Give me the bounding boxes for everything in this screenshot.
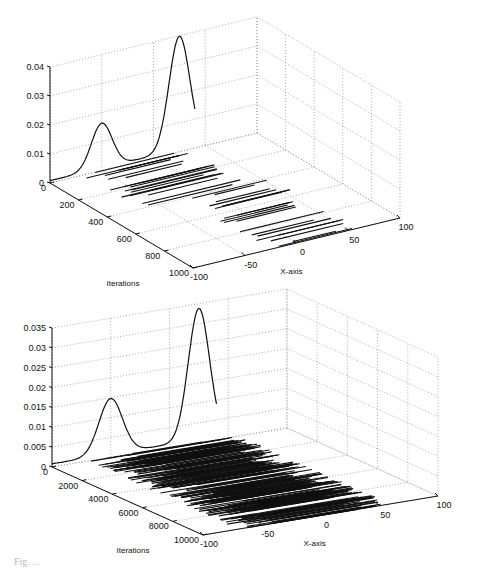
grid-line <box>50 75 400 160</box>
figure: 00.010.020.030.0402004006008001000-100-5… <box>0 0 481 571</box>
iter-tick <box>136 233 140 234</box>
sample-trace <box>279 229 352 247</box>
iter-tick <box>52 466 56 467</box>
x-tick-label: 50 <box>349 235 359 245</box>
iter-tick <box>82 480 86 481</box>
z-tick-label: 0.02 <box>28 383 46 393</box>
iter-tick-label: 10000 <box>174 535 199 545</box>
density-curve <box>50 36 195 180</box>
sample-trace <box>236 207 295 221</box>
z-tick <box>47 66 50 67</box>
iter-tick <box>112 493 116 494</box>
grid-line <box>50 104 400 189</box>
sample-trace <box>131 175 204 193</box>
z-tick-label: 0.01 <box>26 149 44 159</box>
x-tick-label: 0 <box>324 520 329 530</box>
sample-trace <box>278 220 340 235</box>
iter-tick-label: 200 <box>60 200 75 210</box>
iter-tick <box>173 520 177 521</box>
z-tick-label: 0.025 <box>23 363 46 373</box>
sample-trace <box>148 178 217 195</box>
z-tick-label: 0.035 <box>23 323 46 333</box>
density-curve <box>52 308 217 463</box>
x-tick-label: 50 <box>380 510 390 520</box>
sample-trace <box>130 167 214 187</box>
iter-tick <box>50 182 54 183</box>
iter-tick-label: 1000 <box>169 268 189 278</box>
sample-trace <box>215 185 255 195</box>
x-tick-label: 0 <box>300 247 305 257</box>
iter-tick-label: 400 <box>88 217 103 227</box>
x-axis-label: X-axis <box>304 539 326 548</box>
sample-trace <box>87 156 180 179</box>
iterations-axis-label: Iterations <box>107 279 140 288</box>
z-tick-label: 0.01 <box>28 422 46 432</box>
bottom-3d-plot: 00.0050.010.0150.020.0250.030.0350200040… <box>23 289 451 555</box>
x-axis-label: X-axis <box>280 267 302 276</box>
x-tick <box>397 215 400 218</box>
grid-line <box>52 349 438 417</box>
x-tick-label: -100 <box>190 272 208 282</box>
z-tick-label: 0.03 <box>28 343 46 353</box>
z-tick-label: 0.04 <box>26 62 44 72</box>
iter-tick <box>143 507 147 508</box>
z-tick-label: 0.03 <box>26 91 44 101</box>
sample-trace <box>237 202 293 215</box>
iter-tick-label: 0 <box>43 467 48 477</box>
sample-trace <box>240 212 324 232</box>
iter-tick-label: 6000 <box>119 508 139 518</box>
z-tick-label: 0.02 <box>26 120 44 130</box>
figure-caption: Fig. ... <box>14 556 40 567</box>
iter-tick-label: 4000 <box>88 494 108 504</box>
x-tick-label: 100 <box>436 500 451 510</box>
iterations-axis-label: Iterations <box>117 546 150 555</box>
grid-line <box>52 329 438 397</box>
iter-tick-label: 8000 <box>149 521 169 531</box>
sample-trace <box>257 218 331 236</box>
sample-trace <box>220 205 287 221</box>
x-tick-label: -50 <box>244 260 257 270</box>
sample-trace <box>293 231 336 241</box>
iter-tick <box>107 216 111 217</box>
x-tick-label: -100 <box>200 539 218 549</box>
top-3d-plot: 00.010.020.030.0402004006008001000-100-5… <box>26 17 413 288</box>
z-tick <box>49 327 52 328</box>
sample-trace <box>95 153 174 172</box>
iter-tick-label: 2000 <box>58 481 78 491</box>
iter-tick <box>193 267 197 268</box>
grid-line <box>50 17 400 102</box>
x-tick-label: 100 <box>398 222 413 232</box>
iter-tick <box>79 199 83 200</box>
iter-tick-label: 800 <box>145 251 160 261</box>
grid-line <box>52 289 438 357</box>
iter-tick <box>164 250 168 251</box>
grid-line <box>50 46 400 131</box>
iter-tick-label: 600 <box>117 234 132 244</box>
z-tick-label: 0.015 <box>23 402 46 412</box>
x-tick-label: -50 <box>261 529 274 539</box>
sample-trace <box>224 205 295 222</box>
z-tick-label: 0.005 <box>23 442 46 452</box>
grid-line <box>52 368 438 436</box>
iter-tick-label: 0 <box>41 183 46 193</box>
x-tick <box>242 253 245 256</box>
grid-line <box>52 309 438 377</box>
